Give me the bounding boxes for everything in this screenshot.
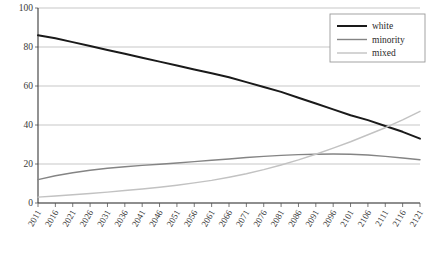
y-tick-label: 0	[28, 198, 33, 208]
x-tick-label: 2076	[251, 208, 269, 229]
x-tick-label: 2041	[130, 208, 148, 229]
x-tick-label: 2031	[95, 208, 113, 229]
x-tick-label: 2101	[338, 208, 356, 229]
y-tick-label: 100	[19, 3, 34, 13]
y-tick-label: 40	[24, 120, 34, 130]
x-axis-labels: 2011201620212026203120362041204620512056…	[26, 203, 425, 229]
x-tick-label: 2121	[408, 208, 426, 229]
legend: whiteminoritymixed	[330, 14, 425, 62]
x-tick-label: 2106	[355, 208, 373, 229]
legend-label-minority: minority	[372, 35, 405, 45]
x-tick-label: 2051	[164, 208, 182, 229]
x-tick-label: 2026	[78, 208, 96, 229]
x-tick-label: 2071	[234, 208, 252, 229]
x-tick-label: 2011	[26, 208, 43, 228]
legend-label-mixed: mixed	[372, 48, 396, 58]
x-tick-label: 2021	[60, 208, 78, 229]
x-tick-label: 2116	[390, 208, 408, 229]
y-tick-label: 60	[24, 81, 34, 91]
x-tick-label: 2066	[217, 208, 235, 229]
y-tick-label: 20	[24, 159, 34, 169]
series-line-minority	[38, 154, 420, 180]
x-tick-label: 2036	[112, 208, 130, 229]
x-tick-label: 2056	[182, 208, 200, 229]
x-tick-label: 2096	[321, 208, 339, 229]
x-tick-label: 2061	[199, 208, 217, 229]
x-tick-label: 2091	[303, 208, 321, 229]
x-tick-label: 2016	[43, 208, 61, 229]
line-chart: 0204060801002011201620212026203120362041…	[0, 0, 432, 270]
chart-canvas: 0204060801002011201620212026203120362041…	[0, 0, 432, 270]
legend-label-white: white	[372, 21, 393, 31]
x-tick-label: 2081	[269, 208, 287, 229]
x-tick-label: 2111	[373, 208, 390, 228]
y-tick-label: 80	[24, 42, 34, 52]
x-tick-label: 2046	[147, 208, 165, 229]
x-tick-label: 2086	[286, 208, 304, 229]
